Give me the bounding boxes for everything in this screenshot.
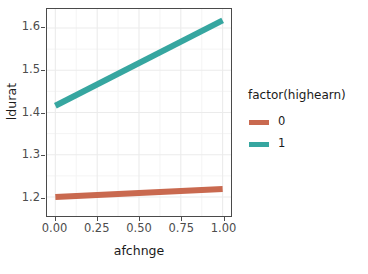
x-tick-label: 0.75 (159, 221, 203, 235)
x-tick-label: 0.25 (75, 221, 119, 235)
legend: factor(highearn) 01 (248, 88, 364, 155)
y-tick-label: 1.3 (4, 147, 40, 161)
x-tick-mark (97, 217, 98, 221)
legend-entry-1[interactable]: 1 (248, 133, 364, 155)
legend-label-1: 1 (278, 138, 285, 150)
x-tick-mark (139, 217, 140, 221)
legend-entries: 01 (248, 111, 364, 155)
x-tick-mark (55, 217, 56, 221)
legend-swatch-0 (249, 120, 269, 125)
series-line-0 (55, 189, 222, 197)
x-axis-tick-labels: 0.000.250.500.751.00 (46, 221, 232, 241)
x-axis-title: afchnge (46, 243, 232, 258)
y-tick-mark (41, 155, 45, 156)
x-tick-mark (181, 217, 182, 221)
y-tick-mark (41, 70, 45, 71)
y-tick-label: 1.6 (4, 19, 40, 33)
legend-title: factor(highearn) (248, 88, 364, 102)
legend-label-0: 0 (278, 116, 285, 128)
x-tick-mark (224, 217, 225, 221)
legend-key-0 (248, 114, 270, 131)
y-tick-label: 1.2 (4, 190, 40, 204)
y-tick-label: 1.5 (4, 62, 40, 76)
y-tick-label: 1.4 (4, 105, 40, 119)
chart-figure: ldurat 1.21.31.41.51.6 0.000.250.500.751… (0, 0, 368, 274)
x-tick-label: 0.00 (33, 221, 77, 235)
x-tick-label: 1.00 (202, 221, 246, 235)
data-lines (47, 9, 231, 216)
y-tick-mark (41, 198, 45, 199)
legend-entry-0[interactable]: 0 (248, 111, 364, 133)
series-line-1 (55, 20, 222, 105)
y-tick-mark (41, 27, 45, 28)
legend-swatch-1 (249, 142, 269, 147)
y-tick-mark (41, 113, 45, 114)
legend-key-1 (248, 136, 270, 153)
plot-panel (46, 8, 232, 217)
x-tick-label: 0.50 (117, 221, 161, 235)
